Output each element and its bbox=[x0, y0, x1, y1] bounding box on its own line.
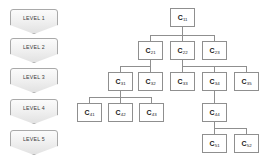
tree-node-c34[interactable]: C34 bbox=[202, 72, 227, 91]
tree-node-label-c11: C11 bbox=[178, 14, 188, 21]
level-banner-4: LEVEL 4 bbox=[10, 99, 58, 124]
tree-node-c22[interactable]: C22 bbox=[170, 41, 195, 60]
tree-node-label-c42: C42 bbox=[116, 109, 126, 116]
level-banner-label-4: LEVEL 4 bbox=[23, 100, 45, 111]
tree-node-label-c41: C41 bbox=[85, 109, 95, 116]
tree-node-c52[interactable]: C52 bbox=[234, 134, 259, 153]
level-banner-5: LEVEL 5 bbox=[10, 130, 58, 155]
tree-node-label-c44: C44 bbox=[210, 109, 220, 116]
tree-node-label-c31: C31 bbox=[116, 78, 126, 85]
tree-node-label-c52: C52 bbox=[242, 140, 252, 147]
hierarchy-diagram-canvas: LEVEL 1 LEVEL 2 LEVEL 3 LEVEL 4 LEVEL 5 bbox=[0, 0, 261, 166]
edge-bus-c21-children bbox=[120, 66, 151, 67]
tree-node-label-c32: C32 bbox=[146, 78, 156, 85]
edge-c11-stem bbox=[182, 27, 183, 35]
tree-node-c42[interactable]: C42 bbox=[108, 103, 133, 122]
level-banner-label-5: LEVEL 5 bbox=[23, 131, 45, 142]
level-banner-label-3: LEVEL 3 bbox=[23, 69, 45, 80]
edge-bus-c44-children bbox=[214, 128, 246, 129]
level-banner-label-1: LEVEL 1 bbox=[23, 10, 45, 21]
tree-node-c21[interactable]: C21 bbox=[138, 41, 163, 60]
tree-node-label-c51: C51 bbox=[210, 140, 220, 147]
tree-node-label-c23: C23 bbox=[210, 47, 220, 54]
tree-node-c23[interactable]: C23 bbox=[202, 41, 227, 60]
tree-node-label-c33: C33 bbox=[178, 78, 188, 85]
tree-node-c51[interactable]: C51 bbox=[202, 134, 227, 153]
level-banner-3: LEVEL 3 bbox=[10, 68, 58, 93]
level-banner-2: LEVEL 2 bbox=[10, 38, 58, 63]
edge-c34-to-c44 bbox=[214, 91, 215, 103]
tree-node-label-c35: C35 bbox=[242, 78, 252, 85]
tree-node-c11[interactable]: C11 bbox=[170, 8, 195, 27]
tree-node-c44[interactable]: C44 bbox=[202, 103, 227, 122]
tree-node-c32[interactable]: C32 bbox=[138, 72, 163, 91]
tree-node-label-c34: C34 bbox=[210, 78, 220, 85]
tree-node-label-c43: C43 bbox=[147, 109, 157, 116]
level-banner-1: LEVEL 1 bbox=[10, 9, 58, 34]
tree-node-c41[interactable]: C41 bbox=[77, 103, 102, 122]
tree-node-c31[interactable]: C31 bbox=[108, 72, 133, 91]
tree-node-label-c22: C22 bbox=[178, 47, 188, 54]
tree-node-c33[interactable]: C33 bbox=[170, 72, 195, 91]
tree-node-c35[interactable]: C35 bbox=[234, 72, 259, 91]
level-banner-label-2: LEVEL 2 bbox=[23, 39, 45, 50]
tree-node-c43[interactable]: C43 bbox=[139, 103, 164, 122]
tree-node-label-c21: C21 bbox=[146, 47, 156, 54]
